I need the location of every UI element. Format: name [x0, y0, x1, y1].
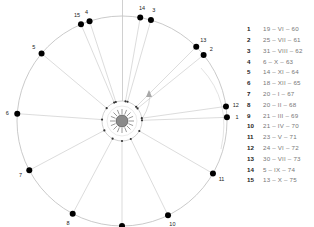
- legend-row: 921 – III – 69: [247, 110, 314, 121]
- sun-ray: [117, 127, 119, 132]
- orbit-point-4: [87, 18, 93, 24]
- inner-marker: [135, 106, 137, 108]
- legend-date: 20 – II – 68: [263, 102, 296, 108]
- inner-marker: [141, 119, 143, 121]
- radial-line: [29, 130, 104, 170]
- legend-number: 14: [247, 167, 263, 173]
- legend-date: 31 – VIII – 62: [263, 48, 303, 54]
- legend-number: 11: [247, 134, 263, 140]
- sun-ray: [114, 113, 118, 117]
- sun-disc: [116, 115, 128, 127]
- radial-line: [73, 139, 113, 214]
- radial-line: [90, 21, 116, 102]
- point-label-12: 12: [233, 102, 239, 108]
- legend-row: 820 – II – 68: [247, 100, 314, 111]
- orbit-point-13: [193, 44, 199, 50]
- point-label-13: 13: [200, 37, 206, 43]
- legend-row: 145 – IX – 74: [247, 164, 314, 175]
- legend-row: 1330 – VII – 73: [247, 154, 314, 165]
- point-label-3: 3: [152, 7, 155, 13]
- orbit-point-3: [148, 17, 154, 23]
- legend-date: 21 – IV – 70: [263, 123, 299, 129]
- inner-marker: [138, 130, 140, 132]
- inner-marker: [106, 107, 108, 109]
- legend-row: 514 – XI – 64: [247, 67, 314, 78]
- legend-row: 119 – VI – 60: [247, 24, 314, 35]
- legend-date: 23 – V – 71: [263, 134, 297, 140]
- radial-line: [139, 131, 213, 174]
- radial-line: [136, 47, 196, 107]
- orbit-point-14: [137, 15, 143, 21]
- point-label-7: 7: [19, 172, 22, 178]
- sun-ray: [111, 124, 116, 126]
- orbit-point-1: [224, 114, 230, 120]
- legend: 119 – VI – 60225 – VII – 61331 – VIII – …: [247, 24, 314, 186]
- inner-marker: [126, 101, 128, 103]
- legend-date: 21 – III – 69: [263, 113, 298, 119]
- inner-marker: [112, 138, 114, 140]
- orbit-point-15: [78, 21, 84, 27]
- legend-row: 331 – VIII – 62: [247, 46, 314, 57]
- radial-line: [125, 18, 140, 102]
- orbit-point-12: [223, 103, 229, 109]
- orbit-point-10: [165, 212, 171, 218]
- legend-date: 14 – XI – 64: [263, 69, 299, 75]
- legend-date: 5 – IX – 74: [263, 167, 295, 173]
- legend-row: 618 – XII – 65: [247, 78, 314, 89]
- radial-line: [142, 117, 227, 120]
- sun-ray: [111, 116, 116, 118]
- legend-number: 8: [247, 102, 263, 108]
- sun-ray: [125, 110, 127, 115]
- sun-ray: [114, 126, 118, 130]
- sun-ray: [125, 127, 127, 132]
- legend-row: 1021 – IV – 70: [247, 121, 314, 132]
- inner-marker: [101, 119, 103, 121]
- radial-line: [17, 114, 102, 120]
- legend-number: 6: [247, 80, 263, 86]
- legend-date: 20 – I – 67: [263, 91, 294, 97]
- inner-marker: [121, 140, 123, 142]
- inner-marker: [130, 138, 132, 140]
- point-label-6: 6: [6, 110, 9, 116]
- orbit-diagram: 123456789101112131415: [0, 0, 245, 227]
- sun-ray: [127, 113, 131, 117]
- orbit-point-2: [201, 52, 207, 58]
- point-label-8: 8: [66, 220, 69, 226]
- sun-ray: [117, 110, 119, 115]
- orbit-point-5: [39, 51, 45, 57]
- point-label-11: 11: [219, 176, 225, 182]
- point-label-5: 5: [32, 44, 35, 50]
- legend-number: 7: [247, 91, 263, 97]
- legend-number: 3: [247, 48, 263, 54]
- legend-row: 720 – I – 67: [247, 89, 314, 100]
- legend-number: 15: [247, 177, 263, 183]
- legend-date: 25 – VII – 61: [263, 37, 301, 43]
- point-label-2: 2: [210, 46, 213, 52]
- radial-line: [142, 106, 226, 118]
- legend-row: 46 – X – 63: [247, 56, 314, 67]
- orbit-point-11: [210, 171, 216, 177]
- legend-row: 1513 – X – 75: [247, 175, 314, 186]
- legend-number: 2: [247, 37, 263, 43]
- legend-date: 6 – X – 63: [263, 59, 293, 65]
- orbit-point-8: [70, 211, 76, 217]
- sun-icon: [110, 109, 134, 133]
- legend-number: 10: [247, 123, 263, 129]
- legend-row: 1224 – VI – 72: [247, 143, 314, 154]
- point-label-4: 4: [85, 9, 88, 15]
- sun-ray: [128, 116, 133, 118]
- inner-marker: [103, 129, 105, 131]
- sun-ray: [127, 126, 131, 130]
- legend-row: 225 – VII – 61: [247, 35, 314, 46]
- inner-orbit-layer: [101, 90, 152, 142]
- legend-date: 30 – VII – 73: [263, 156, 301, 162]
- radial-line: [128, 20, 151, 102]
- legend-date: 18 – XII – 65: [263, 80, 301, 86]
- inner-marker: [124, 100, 126, 102]
- inner-marker: [141, 117, 143, 119]
- legend-number: 9: [247, 113, 263, 119]
- sun-ray: [128, 124, 133, 126]
- orbit-point-6: [14, 111, 20, 117]
- point-label-14: 14: [139, 5, 145, 11]
- legend-number: 12: [247, 145, 263, 151]
